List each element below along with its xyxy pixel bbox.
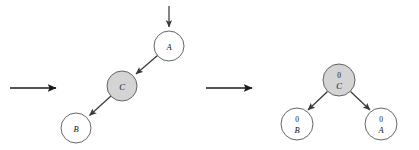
right-node-b-key: 0 (295, 115, 299, 124)
right-node-c-key: 0 (337, 71, 341, 80)
left-node-a-label: A (165, 42, 172, 52)
before-state-panel: A C B (61, 6, 184, 143)
right-edge-c-b (308, 92, 328, 111)
right-node-b-label: B (294, 125, 299, 135)
left-edge-c-b (90, 96, 112, 116)
right-node-a: 0 A (365, 108, 397, 140)
diagram-svg: A C B (0, 0, 419, 150)
left-node-c-label: C (119, 82, 125, 92)
left-edge-a-c (136, 56, 158, 75)
left-node-b-label: B (73, 124, 78, 134)
right-node-a-label: A (377, 125, 384, 135)
right-node-c-label: C (336, 81, 342, 91)
left-edge-c-b-line (90, 96, 112, 116)
left-edge-a-c-line (136, 56, 158, 75)
right-node-c: 0 C (323, 64, 355, 96)
diagram-figure: A C B (0, 0, 419, 150)
right-edge-c-a (351, 92, 371, 111)
right-node-b: 0 B (281, 108, 313, 140)
right-edge-c-b-line (308, 92, 328, 111)
right-edge-c-a-line (351, 92, 371, 111)
left-node-a: A (154, 31, 184, 61)
right-node-a-key: 0 (379, 115, 383, 124)
after-state-panel: 0 C 0 B 0 A (281, 64, 397, 140)
left-node-c: C (107, 71, 137, 101)
left-node-b: B (61, 113, 91, 143)
